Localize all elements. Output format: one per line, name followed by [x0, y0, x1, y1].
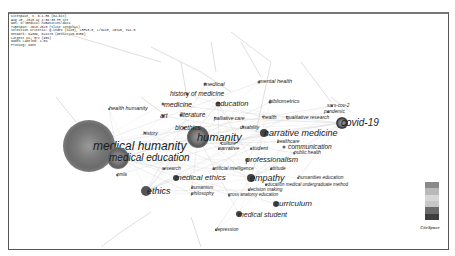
node-label[interactable]: medical student	[238, 211, 287, 218]
logo-subtitle: ~ ~ ~	[415, 230, 445, 233]
node-label[interactable]: gross anatomy education	[228, 193, 278, 198]
node-label[interactable]: curriculum	[275, 200, 312, 208]
node-label[interactable]: public health	[294, 151, 321, 156]
node-label[interactable]: medical humanity	[93, 140, 186, 152]
node-label[interactable]: palliative care	[214, 116, 245, 121]
node-label[interactable]: narrative	[218, 146, 239, 152]
node-label[interactable]: research	[162, 167, 181, 172]
node-label[interactable]: medical ethics	[175, 174, 226, 182]
node-label[interactable]: art	[160, 113, 168, 120]
node-label[interactable]: health	[263, 115, 277, 120]
network-canvas[interactable]: CiteSpace, v. 6.1.R6 (64-bit)Aug 25, 202…	[8, 12, 449, 250]
legend-swatch	[425, 214, 439, 220]
node-label[interactable]: professionalism	[246, 156, 298, 164]
node-label[interactable]: health humanity	[109, 106, 148, 112]
node-label[interactable]: mental health	[259, 79, 292, 85]
node-label[interactable]: disability	[240, 125, 259, 130]
node-label[interactable]: philosophy	[191, 192, 214, 197]
node-label[interactable]: covid-19	[341, 118, 379, 128]
citespace-logo: CiteSpace ~ ~ ~	[415, 225, 445, 233]
node-label[interactable]: history	[143, 131, 158, 136]
node-label[interactable]: medical education	[109, 153, 190, 163]
node-label[interactable]: pmla	[117, 173, 127, 178]
node-label[interactable]: literature	[180, 112, 205, 119]
node-label[interactable]: medicine	[164, 101, 192, 108]
node-communication[interactable]	[283, 146, 286, 149]
node-label[interactable]: pandemic	[324, 110, 345, 115]
node-label[interactable]: bibliometrics	[269, 99, 300, 105]
node-label[interactable]: healthcare	[277, 140, 299, 145]
node-label[interactable]: humanities education	[298, 176, 343, 181]
node-label[interactable]: student	[250, 146, 268, 152]
node-label[interactable]: ethics	[147, 187, 171, 196]
node-label[interactable]: attitude	[270, 167, 286, 172]
node-label[interactable]: history of medicine	[170, 91, 224, 98]
node-label[interactable]: artificial intelligence	[212, 167, 254, 172]
node-label[interactable]: bioethics	[175, 125, 201, 132]
node-label[interactable]: qualitative research	[286, 115, 329, 120]
time-color-legend	[425, 182, 439, 220]
node-label[interactable]: narrative medicine	[264, 129, 338, 138]
node-label[interactable]: depression	[215, 228, 238, 233]
node-label[interactable]: education	[216, 100, 249, 108]
node-label[interactable]: medical	[204, 81, 225, 87]
